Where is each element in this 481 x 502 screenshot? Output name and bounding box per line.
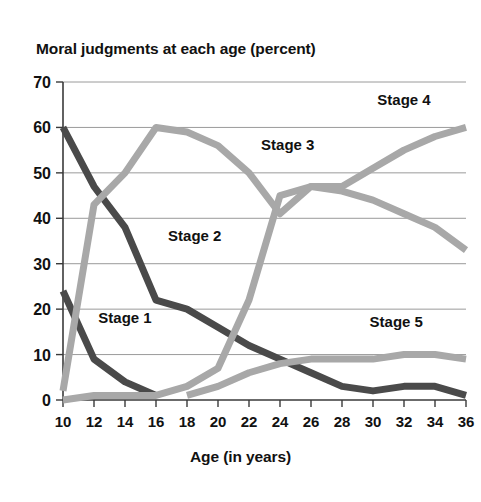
y-tick-60: 60: [33, 119, 51, 136]
x-axis-title: Age (in years): [0, 448, 481, 466]
x-axis-tick-labels: 1012141618202224262830323436: [55, 413, 475, 430]
x-tick-20: 20: [210, 413, 227, 430]
x-tick-14: 14: [117, 413, 134, 430]
series-label-stage-1: Stage 1: [98, 309, 151, 326]
x-tick-28: 28: [334, 413, 351, 430]
y-tick-50: 50: [33, 165, 51, 182]
series-inline-labels: Stage 1Stage 1Stage 2Stage 2Stage 3Stage…: [98, 91, 431, 331]
x-tick-24: 24: [272, 413, 289, 430]
x-tick-30: 30: [365, 413, 382, 430]
x-tick-26: 26: [303, 413, 320, 430]
tick-marks: [56, 82, 466, 407]
series-label-stage-3: Stage 3: [261, 136, 314, 153]
x-tick-12: 12: [86, 413, 103, 430]
y-tick-20: 20: [33, 301, 51, 318]
x-tick-34: 34: [427, 413, 444, 430]
y-tick-70: 70: [33, 74, 51, 91]
moral-judgments-chart: Moral judgments at each age (percent) 01…: [0, 0, 481, 502]
y-tick-30: 30: [33, 256, 51, 273]
series-label-stage-5: Stage 5: [370, 313, 423, 330]
y-tick-0: 0: [42, 392, 51, 409]
y-tick-10: 10: [33, 347, 51, 364]
x-tick-10: 10: [55, 413, 72, 430]
series-label-stage-2: Stage 2: [168, 227, 221, 244]
x-tick-22: 22: [241, 413, 258, 430]
chart-plot-area: 010203040506070 101214161820222426283032…: [0, 0, 481, 502]
x-tick-16: 16: [148, 413, 165, 430]
x-tick-36: 36: [458, 413, 475, 430]
y-axis-tick-labels: 010203040506070: [33, 74, 51, 409]
x-tick-18: 18: [179, 413, 196, 430]
series-label-stage-4: Stage 4: [377, 91, 431, 108]
y-tick-40: 40: [33, 210, 51, 227]
x-tick-32: 32: [396, 413, 413, 430]
